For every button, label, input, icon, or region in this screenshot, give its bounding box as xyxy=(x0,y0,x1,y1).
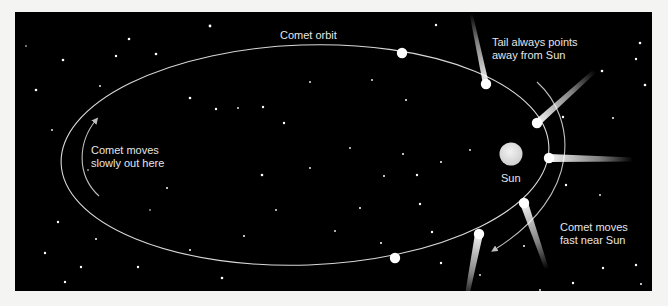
comet-7 xyxy=(390,253,400,263)
label-tail-direction: Tail always points away from Sun xyxy=(492,36,578,61)
sun xyxy=(500,143,523,166)
label-slow-motion: Comet moves slowly out here xyxy=(91,144,164,169)
comet-6 xyxy=(474,229,484,239)
comet-4 xyxy=(544,153,554,163)
label-slow-line2: slowly out here xyxy=(91,157,164,170)
comet-3 xyxy=(532,118,542,128)
label-fast-line2: fast near Sun xyxy=(560,234,628,247)
label-comet-orbit: Comet orbit xyxy=(280,29,337,42)
comet-2 xyxy=(481,79,491,89)
label-tail-line1: Tail always points xyxy=(492,36,578,49)
label-fast-motion: Comet moves fast near Sun xyxy=(560,221,628,246)
comet-1 xyxy=(397,48,407,58)
label-tail-line2: away from Sun xyxy=(492,49,578,62)
label-slow-line1: Comet moves xyxy=(91,144,164,157)
label-sun: Sun xyxy=(501,172,521,185)
comet-5 xyxy=(519,198,529,208)
label-fast-line1: Comet moves xyxy=(560,221,628,234)
